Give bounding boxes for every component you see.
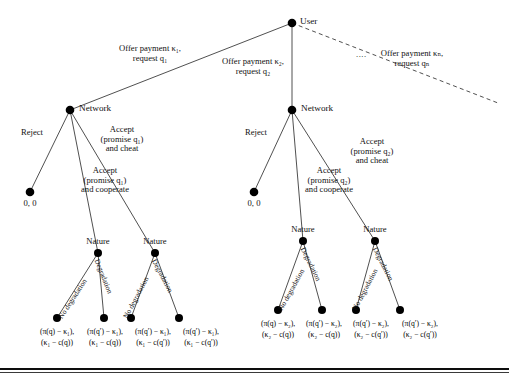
node-label-network-2: Network <box>301 103 333 113</box>
payoff-reject-leaf-1: 0, 0 <box>24 199 37 209</box>
edge-label-offer-1: Offer payment κ₁, request q₁ <box>119 44 181 63</box>
edge-network2-accept-cooperate <box>292 110 303 241</box>
payoff-leaf-2: (π(q′) − κ₁), (κ₁ − c(q)) <box>87 326 123 348</box>
payoff-leaf-7-line1: (π(q′) − κ₂), <box>353 318 389 329</box>
payoff-leaf-2-line1: (π(q′) − κ₁), <box>87 326 123 337</box>
edge-label-offer-1-line2: request q₁ <box>119 54 181 64</box>
node-label-network-1: Network <box>79 103 111 113</box>
edge-label-accept-cooperate-2: Accept (promise q₂) and cooperate <box>305 166 353 195</box>
accept-cheat-1-line3: and cheat <box>101 144 144 154</box>
node-leaf-2 <box>100 314 108 322</box>
payoff-leaf-4-line1: (π(q′) − κ₁), <box>183 326 219 337</box>
payoff-leaf-5-line1: (π(q) − κ₂), <box>261 318 295 329</box>
node-leaf-8 <box>396 306 404 314</box>
payoff-leaf-4-line2: (κ₁ − c(q′)) <box>183 337 219 348</box>
payoff-leaf-1-line1: (π(q) − κ₁), <box>40 326 74 337</box>
node-network-2 <box>288 106 297 115</box>
footer-rule-thick <box>0 368 509 370</box>
edge-label-offer-2: Offer payment κ₂, request q₂ <box>222 57 284 76</box>
footer-rule-thin <box>0 372 509 373</box>
node-nature-3 <box>299 237 307 245</box>
payoff-leaf-5-line2: (κ₂ − c(q)) <box>261 329 295 340</box>
node-nature-4 <box>371 237 379 245</box>
edge-label-offer-2-line2: request q₂ <box>222 67 284 77</box>
node-nature-1 <box>94 249 102 257</box>
payoff-leaf-3: (π(q′) − κ₁), (κ₁ − c(q′)) <box>135 326 171 348</box>
payoff-leaf-8-line2: (κ₂ − c(q′)) <box>402 329 438 340</box>
node-nature-2 <box>151 249 159 257</box>
node-reject-leaf-2 <box>250 188 259 197</box>
edge-network1-reject <box>30 110 70 192</box>
payoff-leaf-7-line2: (κ₂ − c(q′)) <box>353 329 389 340</box>
figure-canvas: User Network Network 0, 0 0, 0 Nature Na… <box>0 0 509 386</box>
edge-label-accept-cooperate-1: Accept (promise q₁) and cooperate <box>81 166 129 195</box>
payoff-leaf-5: (π(q) − κ₂), (κ₂ − c(q)) <box>261 318 295 340</box>
payoff-leaf-3-line1: (π(q′) − κ₁), <box>135 326 171 337</box>
node-user <box>288 19 297 28</box>
payoff-leaf-2-line2: (κ₁ − c(q)) <box>87 337 123 348</box>
branch-ellipsis: .... <box>356 50 367 60</box>
accept-cheat-2-line3: and cheat <box>351 156 394 166</box>
payoff-leaf-8-line1: (π(q′) − κ₂), <box>402 318 438 329</box>
accept-coop-2-line3: and cooperate <box>305 185 353 195</box>
node-label-nature-2: Nature <box>143 237 166 247</box>
payoff-leaf-6-line1: (π(q′) − κ₂), <box>306 318 342 329</box>
payoff-leaf-6: (π(q′) − κ₂), (κ₂ − c(q)) <box>306 318 342 340</box>
payoff-leaf-7: (π(q′) − κ₂), (κ₂ − c(q′)) <box>353 318 389 340</box>
accept-coop-1-line3: and cooperate <box>81 185 129 195</box>
edge-label-offer-n: Offer payment κₙ, request qₙ <box>381 49 444 68</box>
payoff-leaf-1-line2: (κ₁ − c(q)) <box>40 337 74 348</box>
node-label-nature-4: Nature <box>363 225 386 235</box>
payoff-reject-leaf-2: 0, 0 <box>248 199 261 209</box>
node-label-nature-3: Nature <box>291 225 314 235</box>
edge-label-reject-2: Reject <box>245 128 267 138</box>
edge-label-accept-cheat-2: Accept (promise q₂) and cheat <box>351 137 394 166</box>
node-reject-leaf-1 <box>26 188 35 197</box>
payoff-leaf-6-line2: (κ₂ − c(q)) <box>306 329 342 340</box>
node-leaf-4 <box>175 314 183 322</box>
payoff-leaf-8: (π(q′) − κ₂), (κ₂ − c(q′)) <box>402 318 438 340</box>
node-label-nature-1: Nature <box>86 237 109 247</box>
edge-label-offer-n-line2: request qₙ <box>381 59 444 69</box>
node-network-1 <box>66 106 75 115</box>
edge-label-reject-1: Reject <box>21 128 43 138</box>
node-leaf-6 <box>318 306 326 314</box>
node-label-user: User <box>300 16 317 26</box>
payoff-leaf-4: (π(q′) − κ₁), (κ₁ − c(q′)) <box>183 326 219 348</box>
payoff-leaf-1: (π(q) − κ₁), (κ₁ − c(q)) <box>40 326 74 348</box>
edge-network2-reject <box>254 110 292 192</box>
edge-label-accept-cheat-1: Accept (promise q₁) and cheat <box>101 125 144 154</box>
payoff-leaf-3-line2: (κ₁ − c(q′)) <box>135 337 171 348</box>
